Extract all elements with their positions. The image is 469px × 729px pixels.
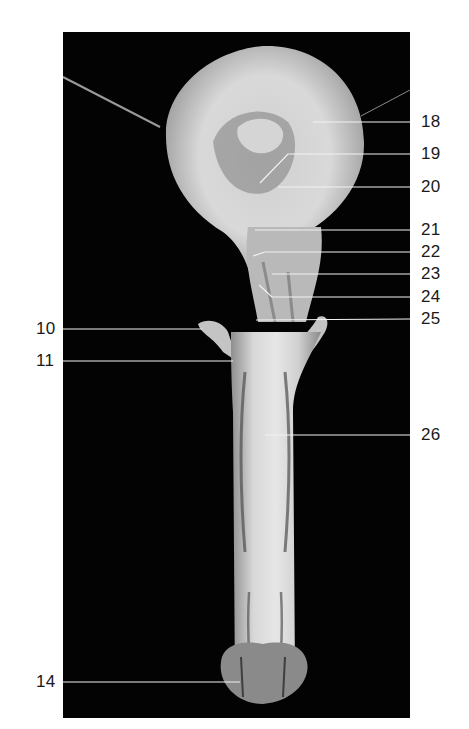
- label-18: 18: [421, 113, 440, 130]
- neck-region: [247, 227, 322, 322]
- label-14: 14: [36, 673, 55, 690]
- distal-end: [221, 643, 308, 704]
- specimen-photo: [63, 32, 410, 718]
- label-25: 25: [421, 310, 440, 327]
- label-19: 19: [421, 145, 440, 162]
- label-23: 23: [421, 265, 440, 282]
- label-24: 24: [421, 288, 440, 305]
- label-22: 22: [421, 243, 440, 260]
- specimen-illustration: [63, 32, 410, 718]
- label-21: 21: [421, 221, 440, 238]
- label-20: 20: [421, 178, 440, 195]
- pin-left: [63, 77, 160, 127]
- label-11: 11: [36, 352, 54, 369]
- label-10: 10: [36, 320, 55, 337]
- pin-right: [361, 90, 410, 116]
- label-26: 26: [421, 426, 440, 443]
